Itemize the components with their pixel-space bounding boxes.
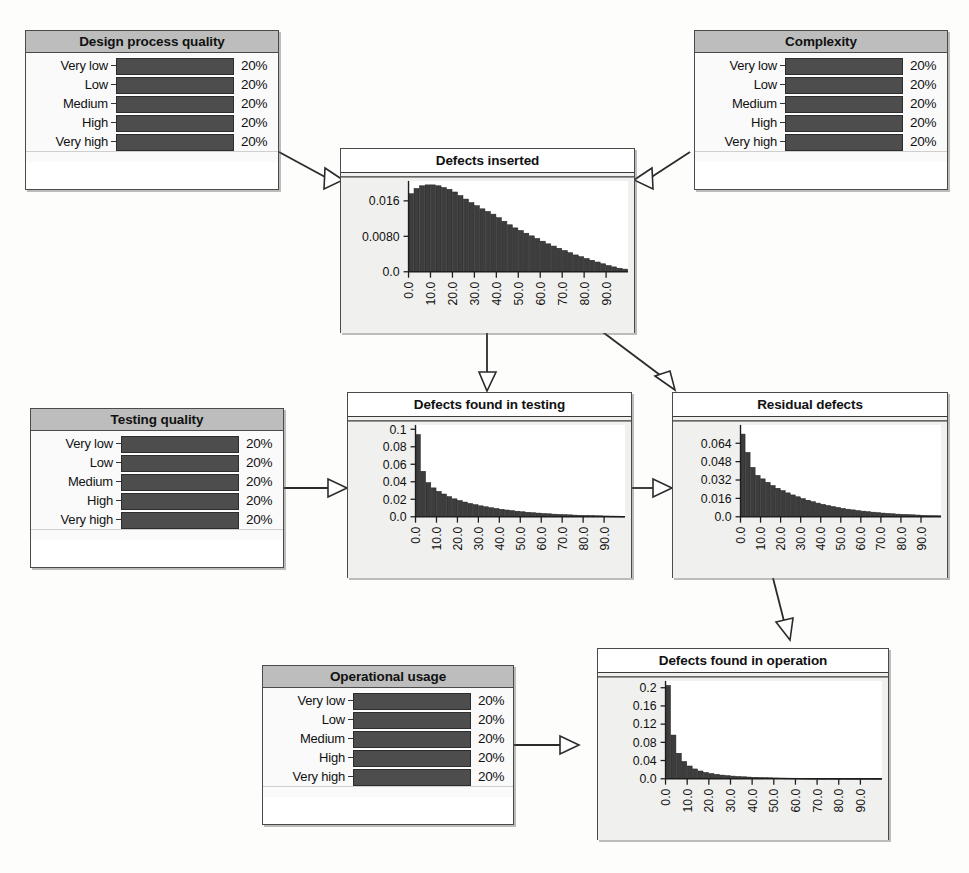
state-row[interactable]: Low 20% — [695, 75, 947, 94]
state-bar-cell — [116, 57, 234, 74]
svg-text:30.0: 30.0 — [472, 526, 486, 550]
node-title: Design process quality — [26, 31, 278, 53]
state-bar-cell — [116, 133, 234, 150]
node-footer — [26, 151, 278, 162]
state-row[interactable]: Medium 20% — [26, 94, 278, 113]
svg-text:40.0: 40.0 — [814, 526, 828, 550]
svg-text:60.0: 60.0 — [534, 281, 548, 305]
node-title: Operational usage — [263, 666, 513, 688]
node-operational-usage[interactable]: Operational usage Very low 20% Low 20% M… — [262, 665, 514, 825]
state-bar — [116, 77, 234, 94]
node-defects-found-in-testing[interactable]: Defects found in testing 0.00.020.040.06… — [347, 392, 632, 578]
node-title: Defects found in testing — [348, 393, 631, 417]
state-row[interactable]: Medium 20% — [695, 94, 947, 113]
node-defects-inserted[interactable]: Defects inserted 0.00.00800.0160.010.020… — [340, 148, 635, 333]
svg-text:70.0: 70.0 — [556, 526, 570, 550]
svg-text:10.0: 10.0 — [430, 526, 444, 550]
state-label: Low — [31, 455, 116, 470]
state-bar — [785, 96, 903, 113]
state-label: Medium — [26, 96, 111, 111]
svg-text:0.06: 0.06 — [383, 458, 407, 472]
node-defects-found-in-operation[interactable]: Defects found in operation 0.00.040.080.… — [597, 648, 889, 840]
node-residual-defects[interactable]: Residual defects 0.00.0160.0320.0480.064… — [672, 392, 948, 578]
state-label: Low — [263, 712, 348, 727]
node-title: Defects inserted — [341, 149, 634, 173]
state-bar-cell — [116, 76, 234, 93]
state-label: Medium — [31, 474, 116, 489]
histogram-svg: 0.00.0160.0320.0480.0640.010.020.030.040… — [673, 417, 947, 578]
state-percent: 20% — [234, 58, 267, 73]
state-label: Very high — [26, 134, 111, 149]
node-complexity[interactable]: Complexity Very low 20% Low 20% Medium 2… — [694, 30, 948, 190]
state-row[interactable]: Low 20% — [263, 710, 513, 729]
state-row[interactable]: Very low 20% — [26, 56, 278, 75]
state-bar-cell — [121, 435, 239, 452]
svg-text:20.0: 20.0 — [774, 526, 788, 550]
svg-text:50.0: 50.0 — [767, 788, 781, 812]
svg-text:0.2: 0.2 — [639, 681, 656, 695]
histogram-svg: 0.00.020.040.060.080.10.010.020.030.040.… — [348, 417, 631, 578]
svg-text:20.0: 20.0 — [702, 788, 716, 812]
state-bar-cell — [121, 454, 239, 471]
svg-text:0.016: 0.016 — [369, 194, 400, 208]
state-row[interactable]: Very low 20% — [263, 691, 513, 710]
state-percent: 20% — [239, 512, 272, 527]
node-testing-quality[interactable]: Testing quality Very low 20% Low 20% Med… — [30, 408, 284, 568]
state-row[interactable]: Medium 20% — [31, 472, 283, 491]
svg-text:0.064: 0.064 — [701, 437, 732, 451]
svg-text:20.0: 20.0 — [451, 526, 465, 550]
state-bar — [116, 134, 234, 151]
state-percent: 20% — [471, 750, 504, 765]
svg-text:0.0: 0.0 — [389, 510, 406, 524]
svg-text:50.0: 50.0 — [834, 526, 848, 550]
state-bar-cell — [121, 511, 239, 528]
state-row[interactable]: Low 20% — [26, 75, 278, 94]
svg-text:10.0: 10.0 — [681, 788, 695, 812]
state-row[interactable]: Very high 20% — [26, 132, 278, 151]
svg-text:0.1: 0.1 — [389, 423, 406, 437]
node-title: Defects found in operation — [598, 649, 888, 673]
state-row[interactable]: Very high 20% — [31, 510, 283, 529]
state-row[interactable]: Low 20% — [31, 453, 283, 472]
state-bar-cell — [116, 95, 234, 112]
state-row[interactable]: Very low 20% — [31, 434, 283, 453]
state-percent: 20% — [239, 493, 272, 508]
svg-text:80.0: 80.0 — [577, 526, 591, 550]
state-percent: 20% — [234, 77, 267, 92]
state-row[interactable]: High 20% — [26, 113, 278, 132]
svg-text:0.0: 0.0 — [402, 281, 416, 298]
edge-residual-to-found-operation — [773, 578, 793, 640]
state-label: High — [31, 493, 116, 508]
histogram-svg: 0.00.040.080.120.160.20.010.020.030.040.… — [598, 673, 888, 840]
state-row[interactable]: Very high 20% — [263, 767, 513, 786]
state-bar — [116, 115, 234, 132]
state-row[interactable]: High 20% — [263, 748, 513, 767]
state-label: Very high — [31, 512, 116, 527]
svg-text:80.0: 80.0 — [578, 281, 592, 305]
state-row[interactable]: Medium 20% — [263, 729, 513, 748]
node-body: Very low 20% Low 20% Medium 20% High — [695, 53, 947, 151]
state-percent: 20% — [903, 134, 936, 149]
state-row[interactable]: High 20% — [31, 491, 283, 510]
state-percent: 20% — [234, 134, 267, 149]
histogram-defects-found-in-testing: 0.00.020.040.060.080.10.010.020.030.040.… — [348, 417, 631, 578]
state-label: Very high — [695, 134, 780, 149]
node-design-process-quality[interactable]: Design process quality Very low 20% Low … — [25, 30, 279, 190]
state-percent: 20% — [903, 115, 936, 130]
node-body: Very low 20% Low 20% Medium 20% High — [26, 53, 278, 151]
state-row[interactable]: High 20% — [695, 113, 947, 132]
state-label: Low — [26, 77, 111, 92]
node-title: Residual defects — [673, 393, 947, 417]
svg-text:40.0: 40.0 — [746, 788, 760, 812]
state-bar — [121, 436, 239, 453]
svg-text:0.08: 0.08 — [633, 736, 657, 750]
svg-text:20.0: 20.0 — [446, 281, 460, 305]
node-title: Complexity — [695, 31, 947, 53]
state-percent: 20% — [234, 96, 267, 111]
state-row[interactable]: Very low 20% — [695, 56, 947, 75]
state-row[interactable]: Very high 20% — [695, 132, 947, 151]
state-bar — [785, 134, 903, 151]
state-label: Very low — [695, 58, 780, 73]
state-label: High — [26, 115, 111, 130]
svg-text:0.0: 0.0 — [639, 772, 656, 786]
